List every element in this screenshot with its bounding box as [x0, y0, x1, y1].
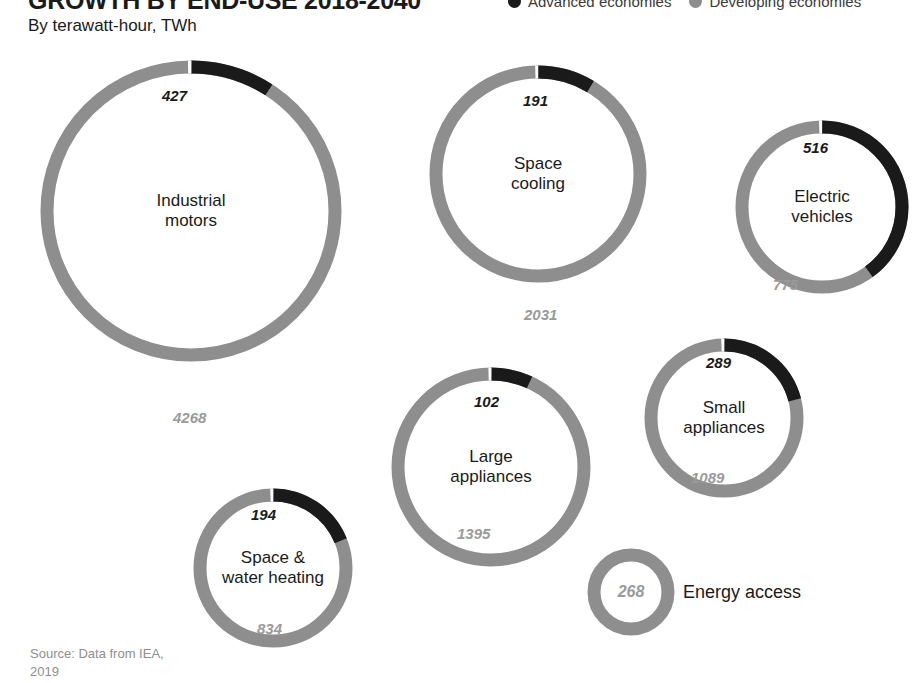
legend-label-developing: Developing economies: [709, 0, 861, 10]
page-title: GROWTH BY END-USE 2018-2040: [28, 0, 421, 15]
value-developing-large-appliances: 1395: [457, 525, 490, 542]
legend-label-advanced: Advanced economies: [528, 0, 671, 10]
donut-energy-access[interactable]: 268 Energy access: [587, 548, 675, 636]
value-developing-space-cooling: 2031: [524, 306, 557, 323]
donut-ring-energy-access: [587, 548, 675, 636]
value-advanced-space-cooling: 191: [523, 92, 548, 109]
value-advanced-industrial-motors: 427: [162, 87, 187, 104]
value-developing-industrial-motors: 4268: [173, 409, 206, 426]
source-note: Source: Data from IEA, 2019: [30, 645, 164, 680]
value-developing-space-water-heating: 834: [257, 620, 282, 637]
donut-industrial-motors[interactable]: Industrial motors 427 4268: [40, 60, 342, 362]
legend-item-advanced[interactable]: Advanced economies: [508, 0, 671, 10]
donut-large-appliances[interactable]: Large appliances 102 1395: [391, 367, 591, 567]
donut-space-cooling[interactable]: Space cooling 191 2031: [429, 65, 647, 283]
donut-small-appliances[interactable]: Small appliances 289 1089: [644, 338, 804, 498]
donut-ring-industrial-motors: [40, 60, 342, 362]
donut-electric-vehicles[interactable]: Electric vehicles 516 775: [735, 120, 909, 294]
value-advanced-electric-vehicles: 516: [803, 139, 828, 156]
legend-swatch-developing-icon: [689, 0, 702, 8]
legend-item-developing[interactable]: Developing economies: [689, 0, 861, 10]
donut-space-water-heating[interactable]: Space & water heating 194 834: [193, 488, 353, 648]
legend-swatch-advanced-icon: [508, 0, 521, 8]
value-developing-electric-vehicles: 775: [773, 276, 798, 293]
infographic-canvas: GROWTH BY END-USE 2018-2040 By terawatt-…: [0, 0, 923, 683]
donut-label-energy-access: Energy access: [683, 582, 801, 603]
value-advanced-small-appliances: 289: [706, 354, 731, 371]
value-advanced-space-water-heating: 194: [251, 506, 276, 523]
value-developing-small-appliances: 1089: [691, 469, 724, 486]
page-subtitle: By terawatt-hour, TWh: [28, 16, 197, 36]
legend: Advanced economies Developing economies: [508, 0, 861, 10]
value-advanced-large-appliances: 102: [474, 393, 499, 410]
